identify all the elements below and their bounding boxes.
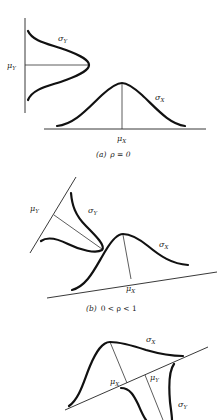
mu-y-guide-b	[54, 215, 102, 249]
mu-x-label-b: μX	[126, 284, 136, 294]
caption-b: (b)0 < ρ < 1	[86, 304, 137, 313]
mu-x-guide-b	[123, 235, 131, 279]
y-axis-b	[30, 177, 76, 253]
caption-a: (a)ρ = 0	[96, 150, 131, 159]
mu-x-label-a: μX	[117, 134, 127, 144]
mu-y-label-a: μY	[7, 61, 17, 71]
figure-c: μX σX μY σY	[65, 335, 208, 420]
sigma-x-label-a: σX	[155, 93, 165, 103]
sigma-y-label-c: σY	[178, 400, 188, 410]
x-axis-b	[47, 272, 217, 298]
marginal-x-curve-c	[69, 342, 183, 406]
marginal-x-curve-a	[57, 83, 185, 126]
figure-b: μY σY μX σX (b)0 < ρ < 1	[30, 177, 217, 313]
marginal-y-curve-c-left	[121, 388, 146, 420]
sigma-y-label-a: σY	[58, 34, 68, 44]
figure-a: μY σY μX σX (a)ρ = 0	[7, 18, 206, 159]
mu-y-label-b: μY	[30, 204, 40, 214]
mu-x-label-c: μX	[110, 377, 120, 387]
sigma-x-label-b: σX	[159, 240, 169, 250]
sigma-x-label-c: σX	[146, 335, 156, 345]
marginal-y-curve-c-right	[169, 364, 174, 420]
marginal-x-curve-b	[72, 234, 188, 290]
correlation-diagram: μY σY μX σX (a)ρ = 0 μY σY μX σX (b)0 < …	[0, 0, 224, 420]
mu-y-label-c: μY	[150, 373, 160, 383]
sigma-y-label-b: σY	[88, 206, 98, 216]
